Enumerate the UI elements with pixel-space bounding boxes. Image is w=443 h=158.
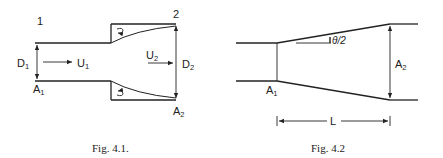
angle-label: θ/2 [332, 35, 346, 46]
diffuser-walls [236, 24, 418, 100]
station-2-label: 2 [173, 8, 179, 20]
u2-label: U2 [146, 49, 158, 63]
figure-4-2: θ/2 A1 A2 L Fig. 4.2 [236, 24, 418, 154]
figure-4-1-caption: Fig. 4.1. [92, 142, 129, 154]
length-label: L [330, 115, 336, 127]
figure-4-2-caption: Fig. 4.2 [311, 142, 345, 154]
a2-label: A2 [173, 105, 185, 119]
station-1-label: 1 [37, 15, 43, 27]
u1-label: U1 [77, 57, 89, 71]
a1-label: A1 [33, 83, 45, 97]
a2-label-fig2: A2 [395, 58, 407, 72]
d2-label: D2 [182, 58, 194, 72]
diagram-canvas: 1 2 D1 U1 A1 U2 D2 A2 Fig. 4.1. [0, 0, 443, 158]
d1-label: D1 [17, 57, 29, 71]
separation-streamlines [111, 26, 176, 98]
figure-4-1: 1 2 D1 U1 A1 U2 D2 A2 Fig. 4.1. [17, 8, 194, 154]
a1-label-fig2: A1 [266, 84, 278, 98]
